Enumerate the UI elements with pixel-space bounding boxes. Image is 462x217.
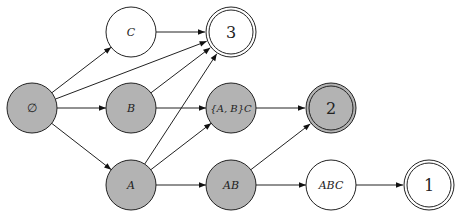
edge-empty-to-C bbox=[52, 47, 111, 93]
node-A: A bbox=[106, 160, 156, 210]
node-label: 1 bbox=[424, 176, 434, 195]
node-C: C bbox=[106, 7, 156, 57]
node-B: B bbox=[106, 83, 156, 133]
edge-B-to-three bbox=[151, 48, 210, 93]
node-label: C bbox=[127, 26, 136, 39]
node-label: 2 bbox=[326, 99, 336, 118]
node-ABC: ABC bbox=[306, 160, 356, 210]
node-empty: ∅ bbox=[7, 83, 57, 133]
node-two: 2 bbox=[306, 83, 356, 133]
node-AB: AB bbox=[206, 160, 256, 210]
node-label: B bbox=[126, 102, 135, 115]
edge-A-to-ABC_set bbox=[151, 123, 211, 169]
node-label: A bbox=[126, 179, 135, 192]
node-label: ∅ bbox=[27, 101, 37, 115]
node-one: 1 bbox=[404, 160, 454, 210]
node-label: {A, B}C bbox=[210, 103, 252, 114]
edge-AB-to-two bbox=[251, 124, 311, 170]
directed-graph: ∅C3B{A, B}C2AABABC1 bbox=[0, 0, 462, 217]
node-label: ABC bbox=[318, 179, 344, 192]
node-label: AB bbox=[222, 179, 239, 192]
node-ABC_set: {A, B}C bbox=[206, 83, 256, 133]
edge-empty-to-A bbox=[52, 123, 112, 169]
node-label: 3 bbox=[226, 23, 236, 42]
node-three: 3 bbox=[206, 7, 256, 57]
